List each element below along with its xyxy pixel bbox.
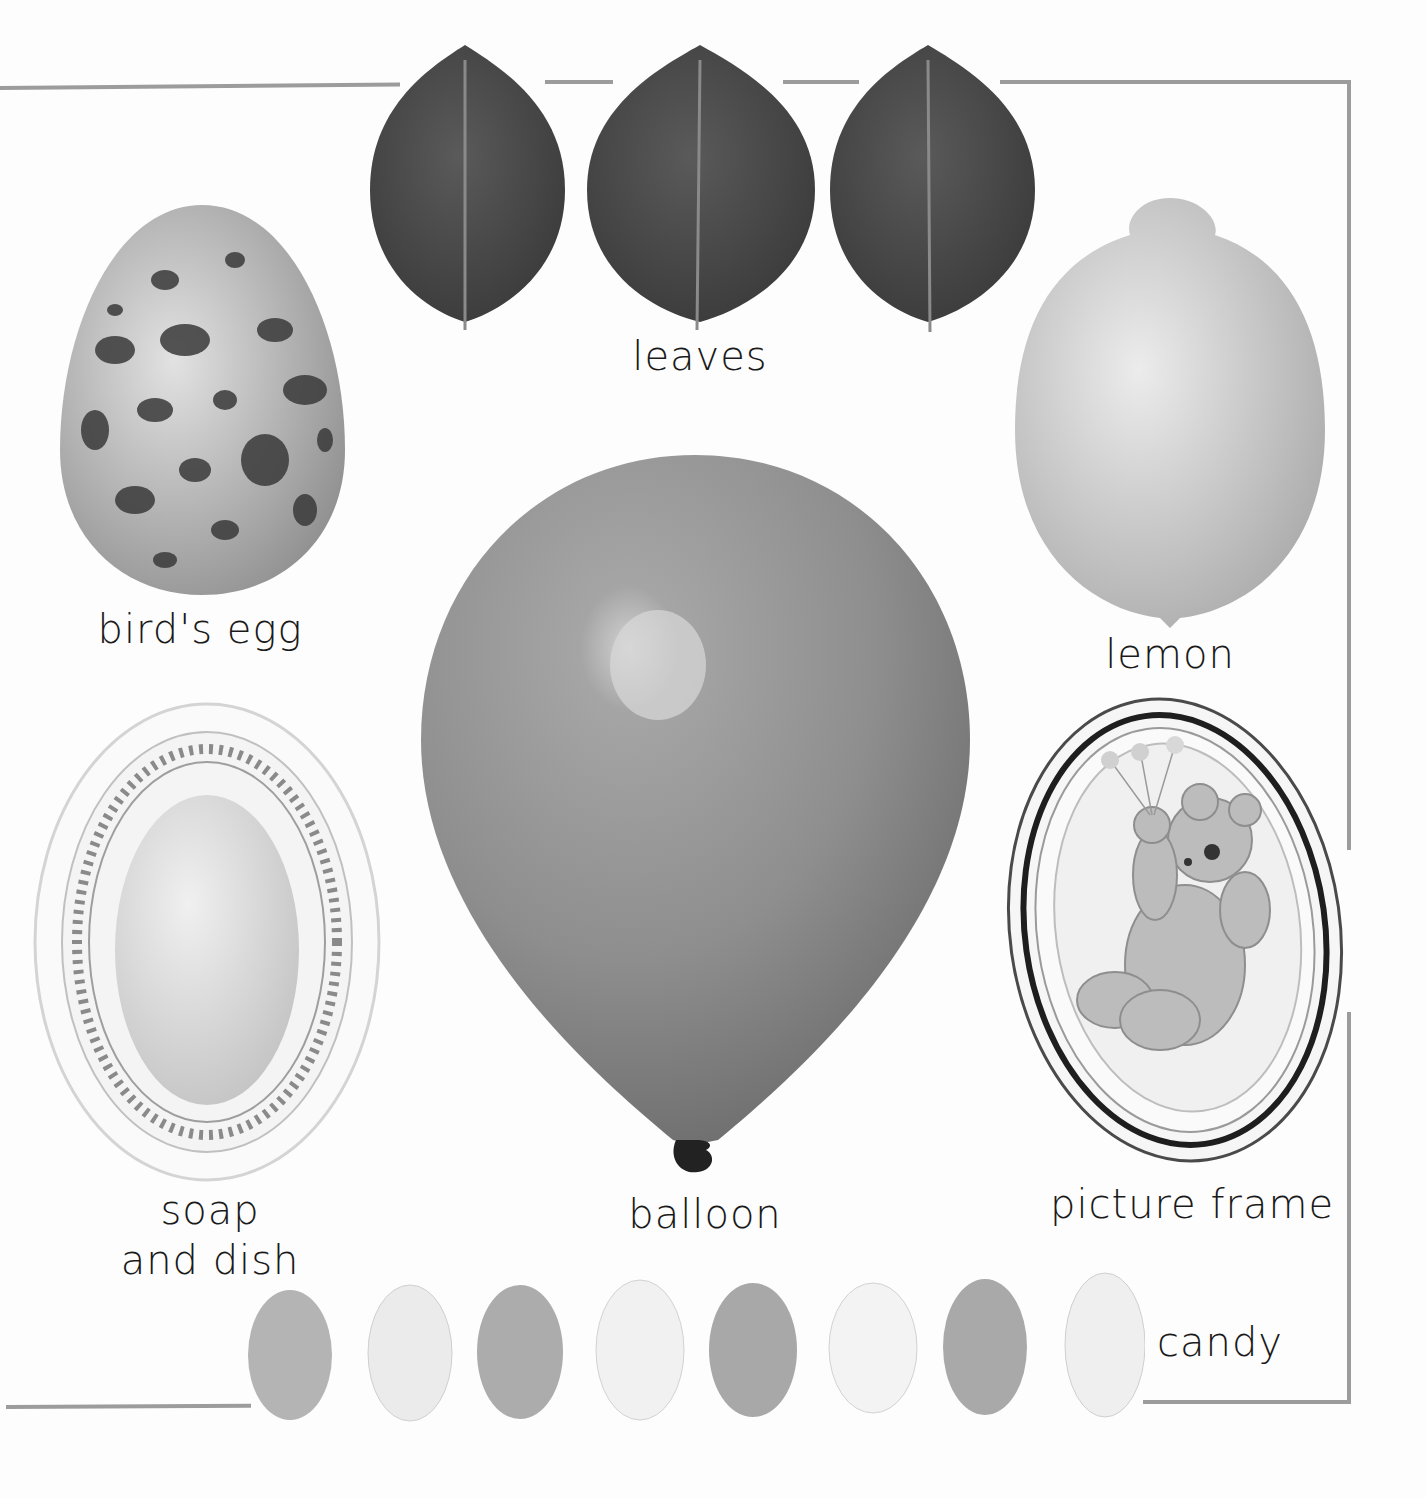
border-top-left: [0, 83, 400, 90]
candy-piece: [596, 1280, 684, 1420]
birds-egg-label: bird's egg: [90, 605, 310, 653]
candy-piece: [943, 1279, 1027, 1415]
picture-frame-image: [1000, 690, 1350, 1170]
border-bottom-right: [1143, 1400, 1351, 1404]
candy-piece: [248, 1290, 332, 1420]
picture-frame-icon: [1000, 690, 1350, 1170]
candy-row: [245, 1270, 1145, 1430]
candy-piece: [477, 1285, 563, 1419]
balloon-image: [418, 450, 973, 1190]
soap-label-line1: soap: [110, 1186, 310, 1234]
balloon-knot: [673, 1140, 712, 1172]
leaves-group: [365, 40, 1035, 335]
candy-piece: [709, 1283, 797, 1417]
candy-piece: [368, 1285, 452, 1421]
candy-piece: [829, 1283, 917, 1413]
birds-egg-image: [55, 200, 350, 600]
lemon-icon: [1010, 190, 1330, 630]
lemon-image: [1010, 190, 1330, 630]
leaf-icon: [365, 40, 1035, 335]
balloon-label: balloon: [605, 1190, 805, 1238]
leaves-label: leaves: [600, 332, 800, 380]
picture-frame-label: picture frame: [1050, 1180, 1310, 1228]
candy-label: candy: [1150, 1318, 1290, 1366]
speckled-egg-icon: [55, 200, 350, 600]
soap-dish-icon: [30, 700, 385, 1185]
page: leaves: [0, 0, 1426, 1498]
border-top-right: [1000, 80, 1351, 84]
lemon-label: lemon: [1090, 630, 1250, 678]
border-bottom-left: [6, 1404, 251, 1409]
soap-dish-image: [30, 700, 385, 1185]
candy-piece: [1065, 1273, 1145, 1417]
candy-icons: [245, 1270, 1145, 1430]
balloon-icon: [418, 450, 973, 1190]
